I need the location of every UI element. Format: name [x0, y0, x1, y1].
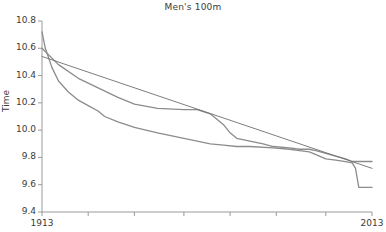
plot-area [0, 0, 386, 232]
series-line [42, 48, 372, 161]
y-tick-label: 10.0 [2, 124, 36, 134]
chart-figure: Men's 100m Time 9.49.69.810.010.210.410.… [0, 0, 386, 232]
y-tick-label: 10.6 [2, 42, 36, 52]
y-tick-label: 9.8 [2, 151, 36, 161]
y-tick-label: 10.8 [2, 15, 36, 25]
y-tick-label: 10.2 [2, 97, 36, 107]
y-tick-label: 9.6 [2, 179, 36, 189]
axes [38, 21, 372, 216]
x-axis-ticks [42, 212, 372, 216]
x-tick-label: 1913 [22, 218, 62, 228]
series-line [42, 32, 372, 188]
x-tick-label: 2013 [352, 218, 386, 228]
y-tick-label: 9.4 [2, 206, 36, 216]
data-series-group [42, 32, 372, 188]
series-line [42, 56, 372, 168]
y-axis-ticks [38, 21, 42, 212]
y-tick-label: 10.4 [2, 70, 36, 80]
